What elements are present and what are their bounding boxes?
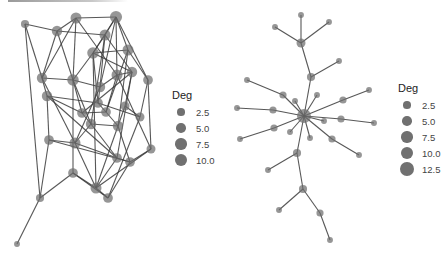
right-network-node [326,19,332,25]
left-network-edge [76,18,117,75]
legend-label: 5.0 [196,123,209,134]
right-network-node [234,105,240,111]
legend-title: Deg [398,82,441,94]
circle-size-icon [403,101,411,109]
circle-size-icon [401,147,414,160]
left-network-node [113,121,123,131]
left-network-node [123,45,134,56]
right-network-nodes [234,12,377,243]
left-network-edge [116,17,117,75]
right-network-node [327,237,333,243]
legend-label: 12.5 [422,164,441,175]
right-network-node [314,92,320,98]
legend-label: 2.5 [422,100,435,111]
legend-label: 5.0 [422,116,435,127]
legend-entry: 5.0 [398,113,441,129]
right-network-edges [237,15,374,240]
left-network-edge [57,31,105,35]
left-network-node [93,98,103,108]
right-network-node [244,77,250,83]
right-network-node [339,96,346,103]
legend-entry: 10.0 [172,152,215,168]
legend-entry: 2.5 [172,104,215,120]
legend-key [172,152,190,168]
legend-entry: 12.5 [398,161,441,177]
right-network-edge [343,90,369,100]
legend-key [172,136,190,152]
left-network-node [112,70,123,81]
legend-label: 7.5 [196,139,209,150]
left-network-node [37,73,47,83]
right-network-edge [303,189,320,213]
left-network-edge [73,18,76,80]
legend-entry: 2.5 [398,97,441,113]
right-network-edge [311,61,339,77]
left-network-node [70,138,81,149]
right-network-edge [341,119,374,123]
left-network-node [52,26,62,36]
legend-key [398,161,416,177]
right-network-edge [247,80,283,95]
left-network-node [100,30,111,41]
right-network-node [276,207,282,213]
left-network-edge [148,80,151,149]
right-network-node [371,120,377,126]
left-network-node [87,47,99,59]
right-network-edge [332,139,359,155]
legend-key [398,129,416,145]
right-network-edge [268,153,297,170]
circle-size-icon [401,131,412,142]
legend-entry: 7.5 [398,129,441,145]
left-network-node [77,108,87,118]
left-network-edge [47,96,49,140]
right-network-edge [301,43,311,77]
legend-key [172,120,190,136]
right-network-node [356,152,362,158]
legend-key [398,145,416,161]
right-network-edge [275,27,301,43]
right-network-node [293,149,301,157]
left-network-node [121,102,130,111]
left-network-node [14,241,20,247]
right-network-edge [237,108,273,110]
legend-key [172,104,190,120]
right-network-edge [320,213,330,240]
circle-size-icon [175,154,188,167]
left-network-node [21,20,29,28]
left-network-edge [42,78,75,143]
left-network-node [67,74,79,86]
right-network-edge [240,128,274,139]
circle-size-icon [176,123,186,133]
network-canvas [0,0,445,257]
left-network-node [36,194,44,202]
right-network-node [265,167,271,173]
right-network-node [279,91,286,98]
legend-entry: 10.0 [398,145,441,161]
left-network-node [68,168,78,178]
right-network-node [298,12,304,18]
right-network-node [328,135,335,142]
legend-entry: 7.5 [172,136,215,152]
left-network-node [71,13,82,24]
right-network-node [237,136,243,142]
left-network-node [42,91,52,101]
legend-label: 10.0 [422,148,441,159]
left-network-node [143,75,153,85]
right-network-node [321,118,327,124]
legend-label: 10.0 [196,155,215,166]
legend-key [398,113,416,129]
legend-label: 2.5 [196,107,209,118]
left-network-edge [40,140,49,198]
legend-key [398,97,416,113]
legend-entries: 2.55.07.510.0 [172,104,215,168]
right-network-node [337,115,344,122]
legend-entry: 5.0 [172,120,215,136]
right-network-node [336,58,342,64]
left-network-node [103,193,113,203]
left-network-edge [108,162,130,198]
right-network-node [287,129,293,135]
right-network-edge [279,189,303,210]
right-network-node [270,124,277,131]
left-network-node [112,153,122,163]
left-network-edge [40,173,73,198]
